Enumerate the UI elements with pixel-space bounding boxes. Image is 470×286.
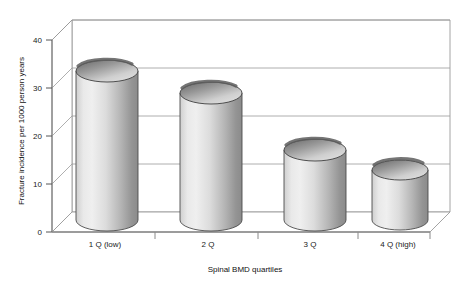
y-tick-label-10: 10 [33,180,42,189]
bar-2-body [180,93,242,231]
bar-cylinder-4[interactable] [372,159,428,230]
x-axis-title: Spinal BMD quartiles [208,265,283,274]
bar-1-body [76,71,138,231]
bar-chart-svg: 0 10 20 30 40 [0,0,470,286]
x-category-label-4: 4 Q (high) [380,240,416,249]
y-tick-label-0: 0 [38,228,43,237]
y-tick-label-40: 40 [33,36,42,45]
bar-cylinder-1[interactable] [76,59,138,231]
y-tick-label-20: 20 [33,132,42,141]
x-category-label-2: 2 Q [202,240,215,249]
chart-container: 0 10 20 30 40 [0,0,470,286]
y-tick-label-30: 30 [33,84,42,93]
bar-3-body [284,150,346,231]
x-category-label-3: 3 Q [304,240,317,249]
x-category-label-1: 1 Q (low) [89,240,122,249]
y-axis-title: Fracture incidence per 1000 person years [17,57,26,205]
bar-cylinder-3[interactable] [284,138,346,231]
bar-cylinder-2[interactable] [180,81,242,231]
